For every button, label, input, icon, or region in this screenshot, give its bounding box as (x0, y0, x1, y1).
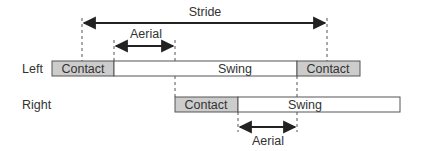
aerial-top-label: Aerial (130, 27, 162, 41)
row-label-left: Left (22, 62, 43, 76)
stride-label: Stride (189, 5, 222, 19)
left-swing (114, 61, 297, 76)
gait-cycle-diagram: Stride Aerial Left Contact Swing Contact… (0, 0, 445, 151)
right-swing-label: Swing (288, 98, 322, 112)
right-contact-label: Contact (184, 98, 228, 112)
left-contact-2-label: Contact (306, 62, 350, 76)
left-contact-1-label: Contact (61, 62, 105, 76)
aerial-bottom-label: Aerial (252, 134, 284, 148)
left-swing-label: Swing (218, 62, 252, 76)
row-label-right: Right (22, 98, 52, 112)
